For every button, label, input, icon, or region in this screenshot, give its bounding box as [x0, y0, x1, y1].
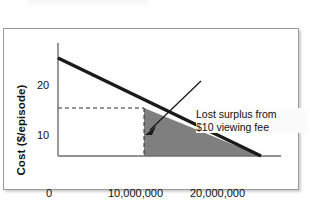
- y-tick-label-10: 10: [37, 129, 49, 141]
- x-tick-label-20000000: 20,000,000: [190, 187, 245, 199]
- x-tick-label-10000000: 10,000,000: [108, 187, 163, 199]
- annotation-line-1: Lost surplus from: [196, 108, 308, 121]
- x-tick-label-0: 0: [46, 187, 52, 199]
- lost-surplus-annotation: Lost surplus from $10 viewing fee: [196, 108, 308, 133]
- page-canvas: Cost ($/episode) Viewing households 20 1…: [0, 0, 310, 202]
- scan-artifact: [28, 0, 148, 9]
- x-axis-title: Viewing households: [61, 201, 283, 202]
- annotation-line-2: $10 viewing fee: [196, 121, 308, 134]
- chart-figure-frame: Cost ($/episode) Viewing households 20 1…: [3, 28, 299, 190]
- y-tick-label-20: 20: [37, 79, 49, 91]
- y-axis-title: Cost ($/episode): [15, 82, 27, 178]
